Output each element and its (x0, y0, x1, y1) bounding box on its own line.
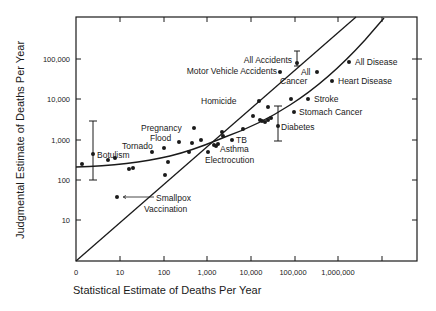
point-diabetes (276, 124, 280, 128)
y-axis-title: Judgmental Estimate of Deaths Per Year (14, 41, 26, 239)
label-electrocution: Electrocution (205, 155, 254, 165)
x-tick-1000000: 1,000,000 (321, 268, 354, 277)
point-all-cancer (315, 70, 319, 74)
x-tick-100000: 100,000 (279, 268, 306, 277)
point (221, 134, 225, 138)
point-tornado (162, 146, 166, 150)
identity-line (76, 17, 356, 261)
point-tb (230, 138, 234, 142)
label-pregnancy: Pregnancy (141, 123, 182, 133)
risk-perception-chart: 0 10 100 1,000 10,000 100,000 1,000,000 … (0, 0, 436, 311)
point (163, 173, 167, 177)
point-electrocution (206, 150, 210, 154)
label-smallpox-1: Smallpox (156, 193, 192, 203)
point (214, 144, 218, 148)
x-tick-1000: 1,000 (198, 268, 217, 277)
point-smallpox (115, 195, 119, 199)
point (220, 130, 224, 134)
label-stroke: Stroke (314, 94, 339, 104)
point (127, 167, 131, 171)
label-botulism: Botulism (97, 150, 130, 160)
point-botulism (91, 152, 95, 156)
label-flood: Flood (150, 133, 172, 143)
point-motor-vehicle (278, 70, 282, 74)
smallpox-arrow (123, 196, 154, 199)
annotations: All Accidents Motor Vehicle Accidents Al… (97, 55, 398, 214)
point (131, 166, 135, 170)
point (241, 127, 245, 131)
y-tick-labels: 10 100 1,000 10,000 100,000 (43, 55, 70, 225)
point (251, 114, 255, 118)
y-tick-10: 10 (62, 216, 70, 225)
point (199, 138, 203, 142)
label-all-disease: All Disease (355, 57, 398, 67)
point-all-disease (347, 60, 351, 64)
point (80, 162, 84, 166)
point (166, 160, 170, 164)
point-stroke (306, 97, 310, 101)
point (266, 105, 270, 109)
point (269, 116, 273, 120)
point-stomach-cancer (292, 110, 296, 114)
y-tick-1000: 1,000 (51, 136, 70, 145)
y-tick-100: 100 (57, 176, 70, 185)
point-flood (177, 140, 181, 144)
label-stomach-cancer: Stomach Cancer (299, 107, 362, 117)
x-tick-10000: 10,000 (240, 268, 263, 277)
point (289, 97, 293, 101)
point (187, 150, 191, 154)
point (190, 141, 194, 145)
label-smallpox-2: Vaccination (144, 204, 188, 214)
y-tick-10000: 10,000 (47, 95, 70, 104)
x-tick-10: 10 (116, 268, 124, 277)
label-all-cancer-2: Cancer (280, 76, 308, 86)
label-heart-disease: Heart Disease (338, 76, 392, 86)
label-homicide: Homicide (201, 96, 237, 106)
x-tick-labels: 0 10 100 1,000 10,000 100,000 1,000,000 (74, 268, 355, 277)
y-tick-100000: 100,000 (43, 55, 70, 64)
point-heart-disease (330, 79, 334, 83)
label-motor-vehicle: Motor Vehicle Accidents (187, 66, 277, 76)
label-all-accidents: All Accidents (244, 55, 292, 65)
point-all-accidents (295, 61, 299, 65)
label-diabetes: Diabetes (281, 122, 315, 132)
x-tick-100: 100 (158, 268, 171, 277)
point-homicide (257, 99, 261, 103)
point-pregnancy (192, 126, 196, 130)
x-axis-title: Statistical Estimate of Deaths Per Year (73, 284, 262, 296)
x-tick-0: 0 (74, 268, 78, 277)
label-asthma: Asthma (220, 144, 249, 154)
